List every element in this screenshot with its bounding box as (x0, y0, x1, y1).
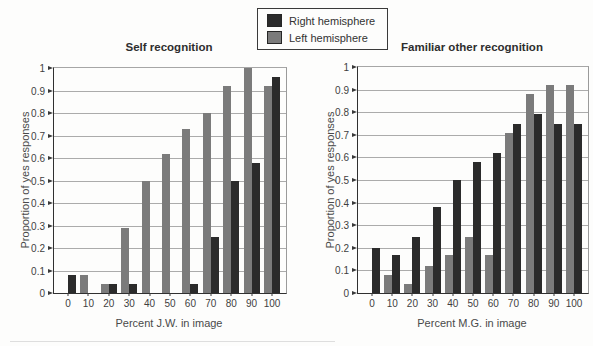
bar-right-hemisphere (433, 207, 441, 293)
bar-left-hemisphere (80, 275, 88, 293)
x-tick-label: 90 (246, 298, 257, 309)
y-tick-icon (352, 223, 357, 227)
bar-left-hemisphere (505, 133, 513, 293)
x-tick-label: 80 (528, 298, 539, 309)
y-tick-label: 0.3 (335, 220, 349, 231)
bar-left-hemisphere (546, 85, 554, 293)
plot-area-familiar-other-recognition: 00.10.20.30.40.50.60.70.80.9101020304050… (357, 66, 589, 294)
gridline (358, 270, 588, 271)
y-tick-icon (352, 201, 357, 205)
x-tick-label: 60 (185, 298, 196, 309)
x-tick-label: 70 (508, 298, 519, 309)
bar-right-hemisphere (554, 124, 562, 294)
x-tick-icon (251, 293, 252, 296)
y-tick-label: 0 (39, 288, 45, 299)
y-tick-label: 0.5 (31, 175, 45, 186)
x-tick-label: 80 (226, 298, 237, 309)
bar-right-hemisphere (534, 114, 542, 293)
bar-right-hemisphere (252, 163, 260, 294)
y-axis-label: Proportion of yes responses (19, 112, 31, 249)
bar-right-hemisphere (412, 237, 420, 294)
x-tick-label: 100 (264, 298, 281, 309)
x-tick-label: 10 (83, 298, 94, 309)
bar-left-hemisphere (485, 255, 493, 293)
gridline (54, 181, 286, 182)
bar-right-hemisphere (473, 162, 481, 293)
bar-left-hemisphere (162, 154, 170, 294)
bar-left-hemisphere (465, 237, 473, 294)
gridline (54, 113, 286, 114)
y-tick-icon (48, 111, 53, 115)
y-tick-label: 1 (39, 63, 45, 74)
x-tick-icon (68, 293, 69, 296)
y-tick-label: 0.9 (31, 85, 45, 96)
y-tick-icon (352, 178, 357, 182)
y-tick-label: 1 (343, 62, 349, 73)
bar-right-hemisphere (574, 124, 582, 294)
y-tick-icon (48, 179, 53, 183)
y-tick-icon (48, 89, 53, 93)
bar-left-hemisphere (182, 129, 190, 293)
x-tick-label: 70 (205, 298, 216, 309)
legend-label-left-hemisphere: Left hemisphere (289, 32, 368, 44)
x-tick-icon (412, 293, 413, 296)
y-tick-icon (48, 246, 53, 250)
x-tick-label: 40 (447, 298, 458, 309)
x-tick-icon (432, 293, 433, 296)
y-tick-label: 0.1 (31, 265, 45, 276)
y-tick-label: 0.5 (335, 175, 349, 186)
x-tick-label: 0 (369, 298, 375, 309)
gridline (54, 226, 286, 227)
bar-left-hemisphere (203, 113, 211, 293)
bar-left-hemisphere (223, 86, 231, 293)
chart-self-recognition: Self recognition Proportion of yes respo… (0, 0, 593, 346)
bar-right-hemisphere (392, 255, 400, 293)
y-tick-label: 0.8 (335, 107, 349, 118)
bar-left-hemisphere (384, 275, 392, 293)
y-tick-label: 0.1 (335, 265, 349, 276)
y-tick-icon (352, 133, 357, 137)
bar-left-hemisphere (244, 68, 252, 293)
x-tick-icon (372, 293, 373, 296)
x-tick-icon (473, 293, 474, 296)
bar-right-hemisphere (453, 180, 461, 293)
bar-right-hemisphere (272, 77, 280, 293)
y-tick-icon (352, 155, 357, 159)
y-tick-icon (352, 291, 357, 295)
bar-left-hemisphere (425, 266, 433, 293)
bar-left-hemisphere (445, 255, 453, 293)
chart-title-self-recognition: Self recognition (53, 41, 285, 53)
x-tick-icon (392, 293, 393, 296)
y-tick-icon (352, 110, 357, 114)
plot-area-self-recognition: 00.10.20.30.40.50.60.70.80.9101020304050… (53, 67, 287, 294)
caption-rule (10, 341, 335, 342)
gridline (54, 91, 286, 92)
y-tick-icon (48, 156, 53, 160)
x-axis-label: Percent J.W. in image (53, 317, 285, 329)
x-tick-icon (452, 293, 453, 296)
x-tick-icon (533, 293, 534, 296)
y-tick-label: 0.8 (31, 108, 45, 119)
bar-left-hemisphere (121, 228, 129, 293)
bar-right-hemisphere (231, 181, 239, 294)
bar-right-hemisphere (493, 153, 501, 293)
legend-item-right-hemisphere: Right hemisphere (267, 14, 375, 27)
y-tick-icon (48, 66, 53, 70)
gridline (54, 158, 286, 159)
right-hemisphere-swatch-icon (267, 14, 282, 27)
bar-left-hemisphere (566, 85, 574, 293)
y-tick-label: 0.6 (335, 152, 349, 163)
y-tick-label: 0.3 (31, 220, 45, 231)
x-tick-label: 90 (548, 298, 559, 309)
legend: Right hemisphere Left hemisphere (257, 8, 388, 50)
x-tick-label: 100 (566, 298, 583, 309)
y-tick-label: 0.7 (335, 129, 349, 140)
bar-left-hemisphere (101, 284, 109, 293)
y-tick-label: 0.9 (335, 84, 349, 95)
bar-left-hemisphere (142, 181, 150, 294)
gridline (358, 90, 588, 91)
y-tick-icon (48, 269, 53, 273)
x-tick-label: 50 (467, 298, 478, 309)
chart-familiar-other-recognition: Familiar other recognition Proportion of… (0, 0, 593, 346)
x-tick-label: 20 (407, 298, 418, 309)
